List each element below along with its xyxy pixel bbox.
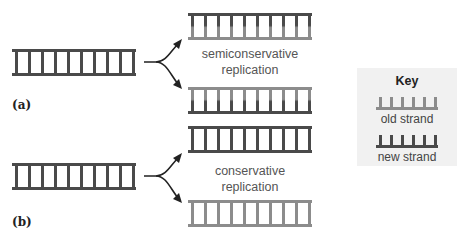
parent-dna-a — [12, 48, 136, 78]
daughter-dna-a2 — [188, 86, 312, 116]
legend-key: Key old strand new strand — [357, 68, 457, 166]
caption-a: semiconservative replication — [188, 46, 312, 78]
caption-a-line2: replication — [188, 62, 312, 78]
parent-dna-b — [12, 162, 136, 192]
panel-label-b: (b) — [12, 215, 32, 229]
daughter-dna-b1 — [188, 125, 312, 155]
panel-label-a: (a) — [12, 98, 31, 112]
caption-a-line1: semiconservative — [188, 46, 312, 62]
caption-b-line2: replication — [188, 179, 312, 195]
daughter-dna-b2 — [188, 199, 312, 229]
branch-arrow-b — [142, 152, 188, 212]
new-strand-label: new strand — [357, 150, 457, 164]
daughter-dna-a1 — [188, 12, 312, 42]
caption-b-line1: conservative — [188, 163, 312, 179]
branch-arrow-a — [142, 38, 188, 98]
key-title: Key — [357, 74, 457, 88]
old-strand-label: old strand — [357, 112, 457, 126]
caption-b: conservative replication — [188, 163, 312, 195]
